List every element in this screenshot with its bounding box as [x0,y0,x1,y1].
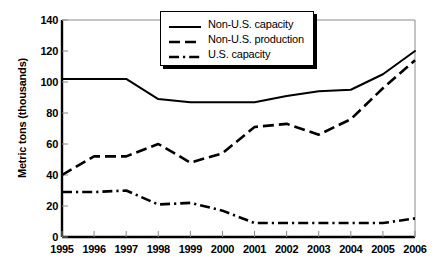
series-line-u-s-capacity [62,191,415,224]
series-line-non-u-s-production [62,60,415,175]
legend-item-1: Non-U.S. production [168,31,304,46]
chart-legend: Non-U.S. capacityNon-U.S. productionU.S.… [160,11,314,66]
dash-dot-line-key [168,48,202,59]
solid-line-key [168,18,202,29]
line-chart: Metric tons (thousands) 0204060801001201… [0,0,441,267]
data-series-group [62,51,415,223]
legend-label: U.S. capacity [208,48,270,60]
legend-item-2: U.S. capacity [168,46,304,61]
dashed-line-key [168,33,202,44]
legend-item-0: Non-U.S. capacity [168,16,304,31]
legend-label: Non-U.S. production [208,33,304,45]
legend-label: Non-U.S. capacity [208,18,293,30]
